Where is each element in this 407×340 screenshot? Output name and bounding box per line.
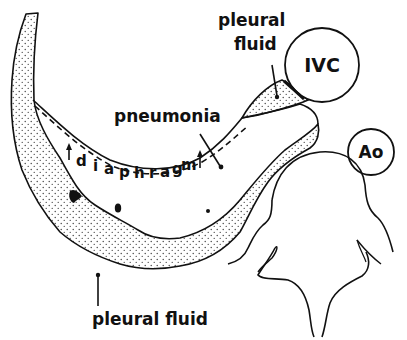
pneumonia-pointer [200, 134, 223, 169]
aorta: Ao [348, 129, 394, 175]
diaphragm-letter: a [104, 160, 114, 178]
diagram-canvas: d i a p h r a g m pneumonia pleural flui… [0, 0, 407, 340]
diaphragm-letter: a [160, 163, 170, 181]
vertebra-process [258, 248, 369, 337]
pleural-fluid-top-label-line1: pleural [218, 10, 285, 30]
pleural-fluid-bottom-label: pleural fluid [92, 309, 208, 329]
diaphragm-letter: i [93, 157, 98, 175]
consolidation-blob-small [206, 209, 210, 213]
pneumonia-label: pneumonia [114, 106, 221, 126]
diaphragm-arrow-left [66, 143, 72, 160]
ivc-label: IVC [304, 54, 340, 76]
diaphragm-letter: d [76, 152, 87, 170]
diaphragm-letter: p [119, 163, 130, 181]
consolidation-blob-medium [115, 204, 121, 213]
vertebra-facet-right-inner [357, 240, 366, 262]
diaphragm-letter: r [149, 164, 157, 182]
pleural-fluid-bottom-pointer [96, 273, 100, 306]
pleural-fluid-top-label-line2: fluid [234, 34, 277, 54]
aorta-label: Ao [359, 142, 384, 162]
diaphragm-letter: h [134, 164, 145, 182]
diaphragm-letter: m [181, 156, 197, 174]
diaphragm-label: d i a p h r a g m [76, 152, 197, 182]
